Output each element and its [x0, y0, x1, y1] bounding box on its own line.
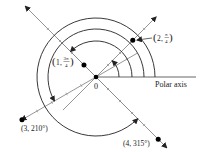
point-label-2-pi-over-4: ( 2 , π 4 ) [153, 31, 173, 44]
svg-text:4: 4 [65, 63, 68, 68]
svg-text:): ) [169, 31, 173, 44]
polar-diagram: 0 Polar axis ( 2 , π 4 ) ( 1 , 3π 4 ) (3… [0, 0, 200, 152]
svg-text:,: , [161, 34, 163, 43]
svg-text:π: π [165, 32, 168, 37]
polar-point-p3 [19, 117, 24, 122]
polar-point-p4 [156, 137, 161, 142]
pole-label: 0 [94, 82, 98, 91]
pole-point [94, 75, 99, 80]
point-label-4-315: (4, 315°) [123, 139, 150, 148]
angle-arc-45-deg [112, 61, 119, 77]
svg-text:,: , [60, 58, 62, 67]
polar-point-p2 [81, 62, 86, 67]
label-pointer-arrow [137, 38, 152, 40]
point-label-1-3pi-over-4: ( 1 , 3π 4 ) [52, 55, 74, 68]
polar-point-p1 [130, 38, 135, 43]
svg-text:4: 4 [165, 39, 168, 44]
point-label-3-210: (3, 210°) [21, 124, 48, 133]
svg-text:): ) [70, 55, 74, 68]
polar-axis-label: Polar axis [155, 80, 187, 89]
svg-text:3π: 3π [64, 56, 70, 61]
